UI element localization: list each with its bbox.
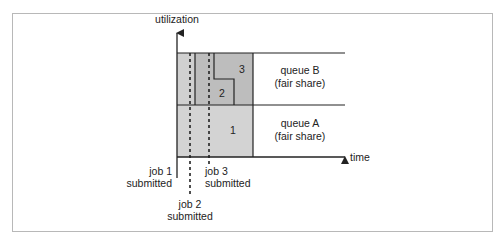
job-1-label-line1: job 1 [148, 165, 172, 177]
job-3-label-line1: job 3 [204, 165, 228, 177]
queue-a-job-1-region [177, 105, 253, 157]
y-axis-label: utilization [155, 13, 199, 25]
job-3-label-line2: submitted [205, 177, 251, 189]
queue-a-name: queue A [281, 117, 320, 129]
fair-scheduler-diagram: utilization time 3 2 1 queue B (fair sha… [0, 0, 504, 244]
job-1-label-line2: submitted [126, 177, 172, 189]
x-axis-label: time [350, 151, 370, 163]
queue-b-note: (fair share) [275, 77, 326, 89]
job-2-region-number: 2 [219, 87, 225, 99]
job-1-region-number: 1 [230, 124, 236, 136]
queue-a-note: (fair share) [275, 130, 326, 142]
job-2-label-line2: submitted [167, 210, 213, 222]
queue-b-name: queue B [280, 64, 319, 76]
queue-b-job-1-region [177, 53, 195, 105]
job-3-region-number: 3 [239, 63, 245, 75]
job-2-label-line1: job 2 [178, 198, 202, 210]
